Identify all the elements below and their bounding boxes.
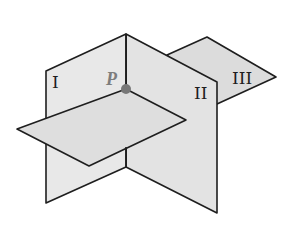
- three-planes-diagram: I II III P: [0, 0, 298, 229]
- plane-1-label: I: [52, 72, 59, 92]
- diagram-canvas: I II III P: [0, 0, 298, 229]
- plane-3-label: III: [232, 68, 252, 88]
- point-p-label: P: [105, 69, 118, 89]
- point-p-marker: [121, 84, 131, 94]
- plane-2-label: II: [194, 83, 207, 103]
